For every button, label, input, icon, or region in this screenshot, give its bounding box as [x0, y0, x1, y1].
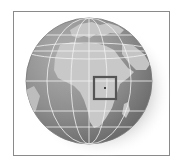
location-point-icon — [104, 87, 106, 89]
globe-map — [0, 0, 181, 166]
